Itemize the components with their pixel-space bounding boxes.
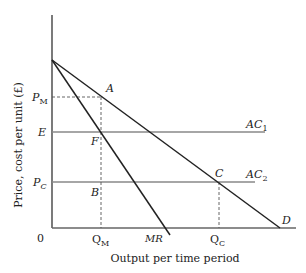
demand-label: D <box>281 214 291 227</box>
point-a-label: A <box>105 82 114 95</box>
x-axis-label: Output per time period <box>110 252 239 265</box>
ac1-label: AC1 <box>245 118 267 133</box>
origin-label: 0 <box>37 232 44 245</box>
mr-label: MR <box>144 233 163 244</box>
qm-label: QM <box>92 233 109 248</box>
point-b-label: B <box>90 186 99 199</box>
point-f-label: F <box>90 135 99 148</box>
demand-curve <box>52 60 280 228</box>
diagram-canvas: Price, cost per unit (£) PM E PC 0 QM MR… <box>0 0 306 273</box>
e-label: E <box>37 126 46 139</box>
pc-label: PC <box>32 176 47 191</box>
pm-label: PM <box>31 91 48 106</box>
point-c-label: C <box>215 167 224 180</box>
y-axis-label: Price, cost per unit (£) <box>12 82 25 208</box>
ac2-label: AC2 <box>245 168 267 183</box>
qc-label: QC <box>210 233 225 248</box>
